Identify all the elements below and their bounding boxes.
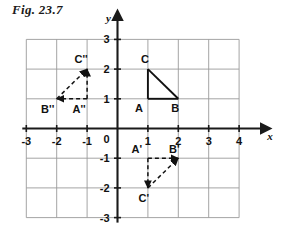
coordinate-plane: -3-2-11234321-1-2-30xy ABCA'B'C'A''B''C'… [0,0,281,232]
axis-tick-label: 1 [145,135,151,147]
axis-tick-label: 4 [236,135,243,147]
vertex-label: C'' [75,53,89,65]
axis-tick-label: -1 [82,135,92,147]
axis-tick-label: -3 [100,212,110,224]
axis-name: x [266,130,273,142]
axis-name: y [104,12,111,24]
vertex-label: B [171,102,179,114]
triangle-edge [57,69,87,99]
triangle-edge [148,69,178,99]
axis-tick-label: -3 [21,135,31,147]
triangle-edge [148,158,178,188]
figure-container: Fig. 23.7 -3-2-11234321-1-2-30xy ABCA'B'… [0,0,281,232]
axis-tick-label: -1 [100,152,110,164]
axis-tick-label: 3 [103,33,109,45]
vertex-label: B'' [41,103,55,115]
vertex-label: C' [139,192,150,204]
axis-tick-label: 1 [103,93,109,105]
vertex-label: A [135,102,143,114]
vertex-label: A' [132,143,143,155]
axis-tick-label: -2 [100,182,110,194]
vertex-label: A'' [73,103,87,115]
axis-tick-label: 2 [103,63,109,75]
vertex-label: C [141,53,149,65]
axis-tick-label: 0 [103,133,109,145]
axis-tick-label: -2 [52,135,62,147]
vertex-label: B' [169,143,180,155]
axis-tick-label: 3 [206,135,212,147]
